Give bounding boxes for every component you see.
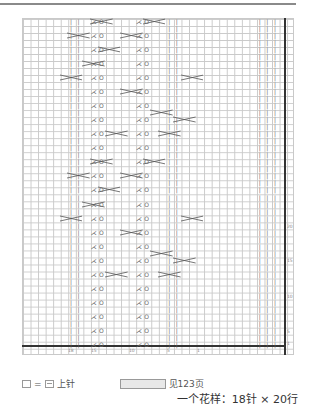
chart-symbol: |: [256, 116, 264, 123]
chart-symbol: |: [75, 313, 83, 320]
chart-symbol: ⋌: [135, 88, 143, 95]
cable-cross-icon: [173, 257, 196, 264]
chart-bottom-border: [22, 345, 284, 347]
chart-symbol: |: [271, 53, 279, 60]
chart-symbol: |: [75, 81, 83, 88]
chart-symbol: O: [143, 285, 151, 292]
chart-symbol: |: [256, 313, 264, 320]
chart-symbol: ⋌: [135, 201, 143, 208]
chart-symbol: |: [173, 243, 181, 250]
chart-symbol: |: [165, 18, 173, 25]
chart-symbol: |: [271, 165, 279, 172]
chart-symbol: O: [143, 299, 151, 306]
chart-symbol: |: [75, 102, 83, 109]
chart-symbol: |: [256, 341, 264, 348]
chart-symbol: |: [165, 229, 173, 236]
chart-symbol: |: [264, 116, 272, 123]
chart-symbol: |: [75, 179, 83, 186]
chart-symbol: |: [75, 46, 83, 53]
chart-symbol: O: [98, 186, 106, 193]
chart-symbol: |: [165, 201, 173, 208]
chart-symbol: |: [165, 264, 173, 271]
chart-symbol: |: [67, 201, 75, 208]
chart-symbol: |: [165, 194, 173, 201]
chart-symbol: |: [173, 102, 181, 109]
chart-symbol: |: [173, 81, 181, 88]
chart-symbol: |: [264, 130, 272, 137]
chart-symbol: |: [75, 67, 83, 74]
chart-symbol: O: [143, 32, 151, 39]
row-label-10: 10: [287, 294, 293, 299]
chart-symbol: |: [264, 194, 272, 201]
chart-symbol: |: [256, 88, 264, 95]
chart-symbol: |: [271, 271, 279, 278]
chart-symbol: |: [67, 320, 75, 327]
chart-symbol: |: [173, 158, 181, 165]
chart-right-border: [284, 18, 286, 355]
chart-symbol: |: [165, 88, 173, 95]
chart-symbol: |: [75, 243, 83, 250]
chart-symbol: ⋌: [135, 285, 143, 292]
cable-cross-icon: [181, 215, 204, 222]
chart-symbol: |: [271, 32, 279, 39]
chart-symbol: |: [173, 278, 181, 285]
chart-symbol: |: [67, 334, 75, 341]
chart-symbol: |: [75, 88, 83, 95]
chart-symbol: |: [264, 137, 272, 144]
chart-symbol: |: [165, 137, 173, 144]
chart-symbol: O: [143, 257, 151, 264]
chart-symbol: |: [271, 194, 279, 201]
chart-symbol: |: [67, 130, 75, 137]
chart-symbol: |: [75, 222, 83, 229]
chart-symbol: |: [264, 25, 272, 32]
chart-symbol: |: [67, 257, 75, 264]
chart-symbol: |: [173, 137, 181, 144]
chart-symbol: |: [256, 123, 264, 130]
chart-symbol: |: [165, 306, 173, 313]
chart-symbol: |: [173, 285, 181, 292]
chart-symbol: |: [165, 46, 173, 53]
chart-symbol: |: [173, 123, 181, 130]
chart-symbol: |: [271, 137, 279, 144]
chart-symbol: |: [67, 151, 75, 158]
chart-symbol: |: [67, 236, 75, 243]
chart-symbol: |: [271, 215, 279, 222]
chart-symbol: |: [256, 165, 264, 172]
cable-cross-icon: [105, 130, 128, 137]
chart-symbol: |: [75, 39, 83, 46]
chart-symbol: O: [143, 18, 151, 25]
chart-symbol: |: [165, 123, 173, 130]
chart-symbol: |: [256, 215, 264, 222]
chart-symbol: ⋌: [90, 229, 98, 236]
chart-symbol: |: [264, 144, 272, 151]
chart-symbol: ⋌: [135, 60, 143, 67]
chart-symbol: |: [271, 327, 279, 334]
chart-symbol: O: [98, 60, 106, 67]
chart-symbol: |: [75, 201, 83, 208]
chart-symbol: |: [256, 46, 264, 53]
chart-symbol: O: [143, 144, 151, 151]
chart-symbol: ⋌: [90, 186, 98, 193]
col-label-10: 10: [129, 348, 135, 353]
chart-symbol: |: [264, 313, 272, 320]
chart-symbol: |: [75, 53, 83, 60]
chart-symbol: |: [165, 285, 173, 292]
chart-symbol: |: [75, 116, 83, 123]
chart-symbol: |: [67, 285, 75, 292]
chart-symbol: O: [98, 46, 106, 53]
chart-symbol: |: [264, 179, 272, 186]
chart-symbol: |: [67, 250, 75, 257]
chart-symbol: |: [271, 102, 279, 109]
chart-symbol: |: [256, 39, 264, 46]
chart-symbol: |: [173, 18, 181, 25]
chart-symbol: |: [271, 186, 279, 193]
chart-symbol: |: [165, 74, 173, 81]
chart-symbol: ⋌: [135, 18, 143, 25]
chart-symbol: |: [75, 60, 83, 67]
chart-symbol: |: [271, 123, 279, 130]
chart-symbol: |: [67, 109, 75, 116]
chart-symbol: |: [271, 320, 279, 327]
chart-symbol: |: [256, 109, 264, 116]
chart-symbol: |: [271, 313, 279, 320]
chart-symbol: |: [173, 201, 181, 208]
